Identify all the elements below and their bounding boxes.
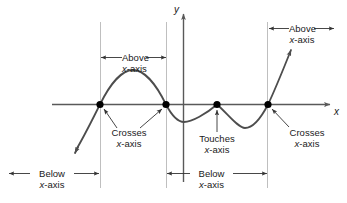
interval-label-above-middle: Above x-axis [122, 52, 146, 74]
leader-crosses-left-a [104, 109, 117, 128]
callout-label-crosses-right-suffix: -axis [299, 138, 319, 149]
callout-label-touches-line1: Touches [193, 133, 241, 144]
interval-label-below-middle-line2: x-axis [190, 179, 233, 190]
interval-arrows [9, 29, 334, 174]
root-dot-2 [162, 101, 169, 108]
interval-label-below-left: Below x-axis [30, 168, 74, 190]
x-axis-label: x [334, 106, 339, 117]
leader-crosses-right [272, 109, 289, 127]
root-dot-3 [213, 101, 220, 108]
interval-label-above-middle-suffix: -axis [127, 63, 147, 74]
interval-label-above-middle-line1: Above [122, 52, 146, 63]
callout-label-crosses-left: Crosses x-axis [106, 127, 152, 149]
polynomial-sign-diagram: x y Above x-axis Above x-axis Below x-ax… [0, 0, 347, 203]
callout-label-touches-line2: x-axis [193, 144, 241, 155]
callout-label-crosses-right: Crosses x-axis [284, 127, 330, 149]
interval-label-below-left-line2: x-axis [30, 179, 74, 190]
interval-label-below-middle-suffix: -axis [204, 179, 224, 190]
callout-label-crosses-right-line2: x-axis [284, 138, 330, 149]
callout-label-crosses-left-suffix: -axis [121, 138, 141, 149]
callout-label-crosses-left-line2: x-axis [106, 138, 152, 149]
y-axis-label: y [174, 4, 179, 15]
callout-label-touches-suffix: -axis [209, 144, 229, 155]
interval-label-above-middle-line2: x-axis [122, 63, 146, 74]
interval-label-below-middle: Below x-axis [190, 168, 233, 190]
interval-label-above-right-suffix: -axis [294, 34, 314, 45]
interval-label-below-middle-line1: Below [190, 168, 233, 179]
root-dot-1 [96, 101, 103, 108]
leader-crosses-left-b [140, 109, 162, 128]
root-dot-4 [264, 101, 271, 108]
callout-label-crosses-left-line1: Crosses [106, 127, 152, 138]
interval-label-above-right-line1: Above [289, 23, 315, 34]
callout-label-touches: Touches x-axis [193, 133, 241, 155]
callout-label-crosses-right-line1: Crosses [284, 127, 330, 138]
interval-label-below-left-line1: Below [30, 168, 74, 179]
interval-label-below-left-suffix: -axis [44, 179, 64, 190]
interval-label-above-right-line2: x-axis [289, 34, 315, 45]
interval-label-above-right: Above x-axis [289, 23, 315, 45]
